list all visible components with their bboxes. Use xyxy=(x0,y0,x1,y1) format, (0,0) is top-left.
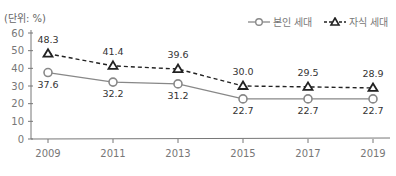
triangle-marker-icon xyxy=(174,65,183,73)
triangle-marker-icon xyxy=(369,83,378,91)
data-label: 22.7 xyxy=(297,105,318,116)
line-chart: 0102030405060200920112013201520172019 37… xyxy=(0,0,396,176)
x-tick-label: 2011 xyxy=(100,148,125,159)
data-label: 22.7 xyxy=(362,105,383,116)
data-label: 22.7 xyxy=(232,105,253,116)
axes: 0102030405060200920112013201520172019 xyxy=(11,28,390,160)
data-label: 37.6 xyxy=(37,79,58,90)
data-label: 28.9 xyxy=(362,68,383,79)
circle-marker-icon xyxy=(174,80,182,88)
series: 37.632.231.222.722.722.748.341.439.630.0… xyxy=(37,34,383,116)
x-tick-label: 2013 xyxy=(165,148,190,159)
y-tick-label: 50 xyxy=(11,45,24,56)
y-tick-label: 60 xyxy=(11,28,24,39)
data-label: 29.5 xyxy=(297,67,318,78)
circle-marker-icon xyxy=(109,78,117,86)
y-tick-label: 40 xyxy=(11,63,24,74)
y-tick-label: 30 xyxy=(11,81,24,92)
data-label: 31.2 xyxy=(167,90,188,101)
child-generation-line xyxy=(48,54,373,88)
data-label: 39.6 xyxy=(167,49,188,60)
circle-marker-icon xyxy=(239,95,247,103)
circle-marker-icon xyxy=(369,95,377,103)
data-label: 48.3 xyxy=(37,34,58,45)
x-tick-label: 2009 xyxy=(35,148,60,159)
circle-marker-icon xyxy=(44,69,52,77)
triangle-marker-icon xyxy=(304,82,313,90)
y-tick-label: 20 xyxy=(11,98,24,109)
triangle-marker-icon xyxy=(109,61,118,69)
circle-marker-icon xyxy=(304,95,312,103)
x-tick-label: 2015 xyxy=(230,148,255,159)
triangle-marker-icon xyxy=(44,49,53,57)
x-tick-label: 2017 xyxy=(295,148,320,159)
data-label: 41.4 xyxy=(102,46,123,57)
y-tick-label: 0 xyxy=(18,134,24,145)
self-generation-line xyxy=(48,73,373,99)
y-tick-label: 10 xyxy=(11,116,24,127)
x-tick-label: 2019 xyxy=(360,148,385,159)
data-label: 30.0 xyxy=(232,66,253,77)
x-axis xyxy=(31,138,390,139)
triangle-marker-icon xyxy=(239,82,248,90)
data-label: 32.2 xyxy=(102,88,123,99)
